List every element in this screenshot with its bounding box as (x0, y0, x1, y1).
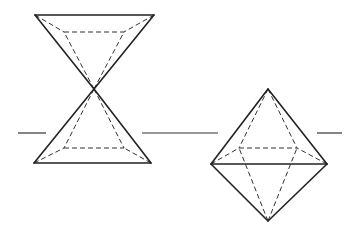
upper-hidden-right-edge (124, 15, 154, 32)
lower-lateral-edge (94, 89, 151, 163)
lower-hidden-left-edge (34, 148, 64, 163)
oct-edge (268, 164, 327, 221)
oct-edge (268, 89, 327, 164)
lower-hidden-lateral-edge (64, 89, 94, 148)
oct-hidden-edge (268, 89, 297, 148)
oct-hidden-edge (268, 148, 297, 221)
octahedron (211, 89, 327, 221)
upper-hidden-left-edge (35, 15, 64, 32)
upper-lateral-edge (35, 15, 94, 89)
oct-hidden-edge (239, 89, 268, 148)
oct-edge (211, 164, 268, 221)
oct-hidden-edge (239, 148, 268, 221)
oct-hidden-edge (211, 148, 239, 164)
upper-lateral-edge (94, 15, 154, 89)
upper-hidden-lateral-edge (64, 32, 94, 89)
oct-hidden-edge (297, 148, 327, 164)
upper-hidden-lateral-edge (94, 32, 124, 89)
lower-hidden-right-edge (124, 148, 151, 163)
lower-hidden-lateral-edge (94, 89, 124, 148)
diagram-canvas (0, 0, 358, 234)
double-pyramid (34, 15, 154, 163)
oct-edge (211, 89, 268, 164)
lower-lateral-edge (34, 89, 94, 163)
